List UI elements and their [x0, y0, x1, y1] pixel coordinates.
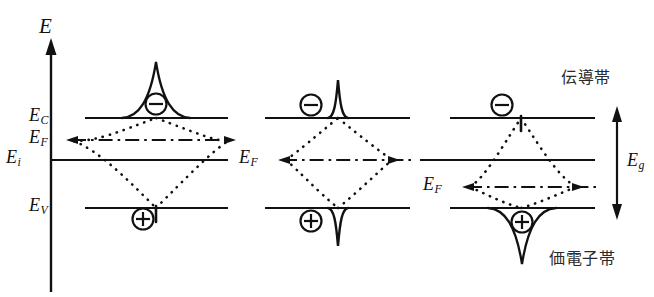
energy-axis-arrowhead: [46, 38, 57, 55]
fermi-convergence-tick-1-left: [66, 136, 78, 144]
dotted-curve-3-upper-left: [470, 118, 521, 187]
electron-minus-symbol-2: [301, 95, 322, 116]
electron-minus-symbol-1: [146, 94, 167, 115]
dotted-curve-1-upper-right: [156, 118, 228, 141]
conduction-band-label: 伝導帯: [561, 64, 611, 88]
dotted-curve-2-upper-right: [338, 118, 392, 160]
dotted-curve-2-upper-left: [286, 118, 338, 160]
valence-band-label: 価電子帯: [549, 245, 615, 269]
dotted-curve-1-lower-right: [156, 141, 228, 208]
panel-intrinsic: [265, 80, 414, 246]
bandgap-label: Eg: [627, 151, 644, 172]
fermi-convergence-tick-2-right: [388, 156, 400, 164]
fermi-convergence-tick-3-right: [572, 183, 584, 191]
energy-axis: [46, 38, 57, 292]
level-label-ec: EC: [29, 106, 48, 127]
level-label-ef-3: EF: [423, 175, 442, 196]
hole-plus-symbol-1: [133, 209, 154, 230]
energy-axis-label: E: [39, 16, 52, 37]
dotted-curve-2-lower-right: [338, 160, 392, 208]
fermi-convergence-tick-2-left: [278, 156, 290, 164]
electron-distribution-curve-2: [328, 80, 348, 118]
dotted-curve-3-upper-right: [521, 118, 576, 187]
level-label-ef-1: EF: [29, 128, 48, 149]
dotted-curve-3-lower-right: [521, 187, 576, 208]
level-label-ef-2: EF: [239, 148, 258, 169]
level-label-ei: Ei: [6, 148, 21, 169]
dotted-curve-1-upper-left: [74, 118, 156, 141]
bandgap-arrow-head-top: [612, 106, 622, 122]
electron-minus-symbol-3: [492, 95, 513, 116]
panel-n-type: [51, 62, 236, 230]
hole-plus-symbol-3: [512, 212, 533, 233]
dotted-curve-3-lower-left: [470, 187, 521, 208]
dotted-curve-1-lower-left: [74, 141, 156, 208]
hole-distribution-curve-2: [328, 208, 348, 246]
fermi-convergence-tick-3-left: [462, 183, 474, 191]
panel-p-type: [420, 95, 600, 265]
band-diagram-figure: E EC EF Ei EV EF EF Eg 伝導帯 価電子帯: [0, 0, 654, 297]
bandgap-arrow: [612, 106, 622, 220]
dotted-curve-2-lower-left: [286, 160, 338, 208]
hole-plus-symbol-2: [301, 211, 322, 232]
fermi-convergence-tick-1-right: [224, 136, 236, 144]
level-label-ev: EV: [29, 196, 48, 217]
bandgap-arrow-head-bottom: [612, 204, 622, 220]
